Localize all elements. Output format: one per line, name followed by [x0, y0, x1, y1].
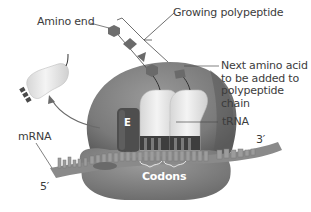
e-site-label: E — [124, 117, 131, 130]
codons-label: Codons — [142, 171, 186, 184]
mrna-label: mRNA — [18, 131, 51, 144]
growing-polypeptide-label: Growing polypeptide — [173, 7, 283, 20]
released-trna — [19, 54, 68, 103]
amino-end-label: Amino end — [37, 16, 94, 29]
trna-label: tRNA — [222, 116, 249, 129]
next-amino-acid-label: Next amino acid to be added to polypepti… — [221, 60, 311, 110]
five-prime-label: 5′ — [40, 181, 49, 194]
three-prime-label: 3′ — [256, 134, 265, 147]
e-site — [117, 108, 140, 152]
polypeptide-bracket — [117, 13, 174, 62]
ribosome-diagram: Amino end Growing polypeptide Next amino… — [0, 0, 311, 212]
